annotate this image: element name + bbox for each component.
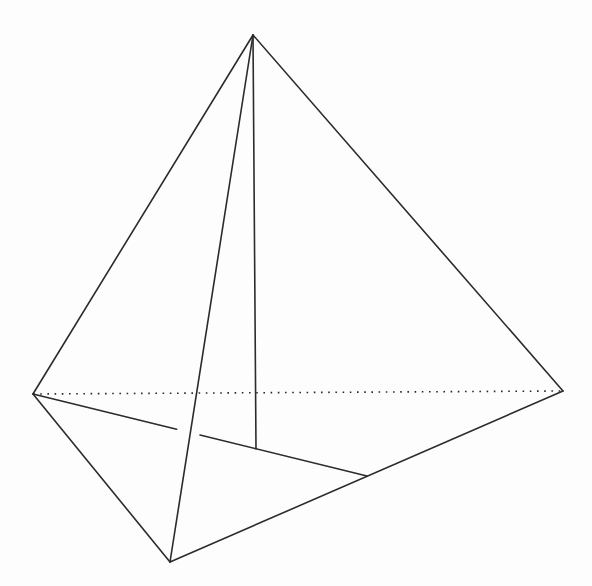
- hidden-edge-left-right: [33, 391, 563, 394]
- edge-apex-front: [170, 35, 253, 562]
- median-left-to-midpoint-part-1: [33, 394, 177, 429]
- cevian-apex-to-centroid: [253, 35, 256, 449]
- figure-canvas: [0, 0, 592, 586]
- edge-left-front: [33, 394, 170, 562]
- tetrahedron-figure: [0, 0, 592, 586]
- median-left-to-midpoint-part-2: [200, 435, 367, 476]
- edge-apex-left: [33, 35, 253, 394]
- edge-apex-right: [253, 35, 563, 391]
